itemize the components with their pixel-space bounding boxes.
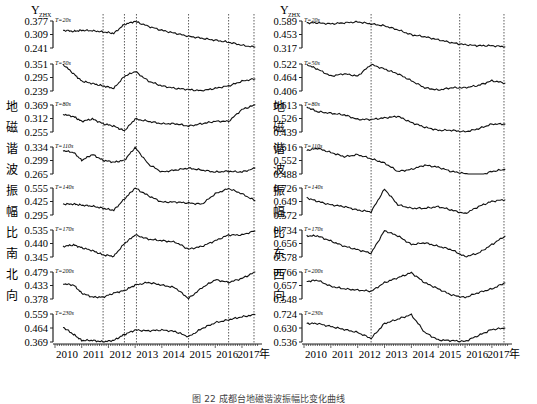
y-tick-label: 0.766 <box>273 267 297 278</box>
y-tick-label: 0.479 <box>24 267 48 278</box>
series-label: T=80s <box>304 101 320 107</box>
x-tick-label: 2012 <box>109 348 131 360</box>
series-label: T=80s <box>55 101 71 107</box>
x-tick-label: 2015 <box>190 348 213 360</box>
y-tick-label: 0.377 <box>24 16 48 27</box>
y-tick-label: 0.649 <box>273 196 297 207</box>
y-tick-label: 0.334 <box>24 142 48 153</box>
harmonic-amplitude-chart: YZHX地磁谐波振幅比南北向0.3770.3090.241T=20s0.3510… <box>0 0 537 404</box>
y-tick-label: 0.299 <box>24 155 48 166</box>
y-tick-label: 0.453 <box>273 29 297 40</box>
series-line <box>307 231 506 257</box>
y-tick-label: 0.295 <box>24 210 48 221</box>
y-tick-label: 0.239 <box>24 86 48 97</box>
series-line <box>307 64 506 90</box>
y-tick-label: 0.369 <box>24 100 48 111</box>
y-tick-label: 0.572 <box>273 210 297 221</box>
series-label: T=110s <box>55 143 74 149</box>
y-tick-label: 0.425 <box>24 196 48 207</box>
x-tick-label: 2014 <box>163 348 186 360</box>
series-label: T=200s <box>304 268 323 274</box>
x-tick-label: 2014 <box>412 348 435 360</box>
series-line <box>63 188 255 211</box>
y-tick-label: 0.488 <box>273 169 297 180</box>
y-tick-label: 0.536 <box>273 337 297 348</box>
x-tick-label: 2017年 <box>487 347 520 360</box>
series-label: T=20s <box>55 17 71 23</box>
series-line <box>63 314 255 342</box>
series-label: T=230s <box>55 310 74 316</box>
y-tick-label: 0.317 <box>273 43 297 54</box>
series-label: T=170s <box>304 226 323 232</box>
x-tick-label: 2010 <box>305 348 328 360</box>
y-tick-label: 0.734 <box>273 225 297 236</box>
y-tick-label: 0.439 <box>273 127 297 138</box>
side-label-char: 磁 <box>6 120 18 135</box>
y-tick-label: 0.265 <box>24 169 48 180</box>
y-tick-label: 0.555 <box>24 183 48 194</box>
series-line <box>307 314 506 342</box>
y-tick-label: 0.724 <box>273 309 297 320</box>
series-line <box>307 148 506 174</box>
series-line <box>63 21 255 47</box>
series-line <box>307 272 506 298</box>
y-tick-label: 0.312 <box>24 113 48 124</box>
y-tick-label: 0.552 <box>273 155 297 166</box>
series-line <box>63 231 255 257</box>
y-tick-label: 0.526 <box>273 113 297 124</box>
side-label-char: 比 <box>6 226 18 240</box>
y-tick-label: 0.309 <box>24 29 48 40</box>
y-tick-label: 0.613 <box>273 100 297 111</box>
side-label-char: 振 <box>6 184 18 198</box>
y-tick-label: 0.464 <box>24 323 48 334</box>
figure-caption: 图 22 成都台地磁谐波振幅比变化曲线 <box>0 392 537 404</box>
y-tick-label: 0.464 <box>273 72 297 83</box>
series-label: T=50s <box>304 60 320 66</box>
y-tick-label: 0.578 <box>273 252 297 263</box>
series-line <box>63 147 255 172</box>
chart-panel-2: YZHX地磁谐波振幅比东西向0.5890.4530.317T=20s0.5220… <box>273 3 520 360</box>
y-tick-label: 0.548 <box>273 294 297 305</box>
y-tick-label: 0.440 <box>24 238 48 249</box>
y-tick-label: 0.433 <box>24 280 48 291</box>
chart-panel-1: YZHX地磁谐波振幅比南北向0.3770.3090.241T=20s0.3510… <box>6 3 270 360</box>
series-label: T=200s <box>55 268 74 274</box>
side-label-char: 南 <box>6 246 18 261</box>
x-tick-label: 2013 <box>386 348 409 360</box>
series-label: T=140s <box>55 184 74 190</box>
y-tick-label: 0.616 <box>273 142 297 153</box>
x-tick-label: 2012 <box>359 348 381 360</box>
y-tick-label: 0.295 <box>24 72 48 83</box>
x-tick-label: 2013 <box>136 348 159 360</box>
side-label-char: 地 <box>6 100 18 114</box>
series-line <box>63 105 255 131</box>
side-label-char: 向 <box>6 288 18 303</box>
y-tick-label: 0.241 <box>24 43 48 54</box>
series-line <box>307 107 506 132</box>
y-tick-label: 0.406 <box>273 86 297 97</box>
x-tick-label: 2011 <box>332 348 354 360</box>
side-label-char: 北 <box>6 268 18 282</box>
y-tick-label: 0.559 <box>24 309 48 320</box>
y-tick-label: 0.255 <box>24 127 48 138</box>
y-tick-label: 0.378 <box>24 294 48 305</box>
series-label: T=140s <box>304 184 323 190</box>
y-tick-label: 0.657 <box>273 280 297 291</box>
x-tick-label: 2016 <box>216 348 239 360</box>
y-tick-label: 0.535 <box>24 225 48 236</box>
y-tick-label: 0.369 <box>24 337 48 348</box>
y-tick-label: 0.589 <box>273 16 297 27</box>
series-line <box>63 64 255 91</box>
x-tick-label: 2011 <box>83 348 105 360</box>
series-label: T=230s <box>304 310 323 316</box>
series-label: T=170s <box>55 226 74 232</box>
side-label-char: 幅 <box>6 204 18 219</box>
y-tick-label: 0.345 <box>24 252 48 263</box>
x-tick-label: 2015 <box>439 348 462 360</box>
y-tick-label: 0.630 <box>273 323 297 334</box>
x-tick-label: 2010 <box>56 348 79 360</box>
side-label-char: 谐 <box>6 142 18 156</box>
series-line <box>307 189 506 213</box>
y-tick-label: 0.351 <box>24 59 48 70</box>
series-line <box>307 21 506 47</box>
